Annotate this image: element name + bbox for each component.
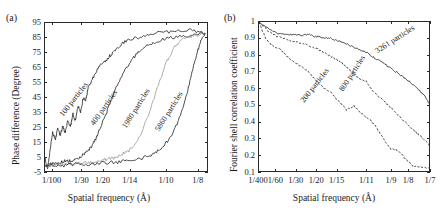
y-tick-label: 25 — [14, 122, 41, 132]
x-tickmark-top — [166, 22, 167, 25]
y-tickmark — [44, 172, 47, 173]
y-tick-label: 0.6 — [228, 83, 255, 93]
y-tickmark-right — [205, 127, 208, 128]
y-tick-label: 95 — [14, 17, 41, 27]
x-tickmark — [103, 169, 104, 172]
x-tickmark-top — [258, 21, 259, 24]
x-tickmark-top — [391, 21, 392, 24]
y-tickmark — [44, 22, 47, 23]
x-tickmark-top — [316, 21, 317, 24]
y-tick-label: 55 — [14, 77, 41, 87]
y-tickmark-right — [205, 82, 208, 83]
x-tick-label: 1/8 — [181, 175, 215, 185]
y-tickmark — [44, 112, 47, 113]
y-tickmark-right — [427, 38, 430, 39]
y-tickmark-right — [427, 71, 430, 72]
x-tickmark — [258, 169, 259, 172]
x-tickmark — [52, 169, 53, 172]
y-tickmark — [258, 38, 261, 39]
x-tickmark-top — [130, 22, 131, 25]
x-tickmark-top — [198, 22, 199, 25]
y-tick-label: 85 — [14, 32, 41, 42]
y-tickmark — [258, 88, 261, 89]
panel-b-curves — [259, 22, 430, 172]
x-tickmark-top — [366, 21, 367, 24]
x-tickmark — [81, 169, 82, 172]
x-tickmark-top — [337, 21, 338, 24]
y-tick-label: 0.9 — [228, 32, 255, 42]
y-tickmark — [44, 82, 47, 83]
y-tickmark-right — [427, 105, 430, 106]
panel-b-plot-area — [258, 21, 430, 172]
y-tick-label: 0.3 — [228, 133, 255, 143]
y-tick-label: 75 — [14, 47, 41, 57]
x-tickmark-top — [296, 21, 297, 24]
x-tickmark — [337, 169, 338, 172]
y-tickmark — [258, 138, 261, 139]
x-tickmark-top — [275, 21, 276, 24]
panel-a: (a) Phase difference (Degree) Spatial fr… — [0, 0, 218, 210]
x-tickmark — [408, 169, 409, 172]
y-tickmark-right — [205, 52, 208, 53]
y-tick-label: 0.4 — [228, 116, 255, 126]
y-tickmark-right — [427, 138, 430, 139]
y-tickmark — [44, 157, 47, 158]
y-tickmark — [258, 122, 261, 123]
y-tickmark — [44, 52, 47, 53]
y-tick-label: 35 — [14, 107, 41, 117]
y-tickmark-right — [205, 172, 208, 173]
x-tickmark — [275, 169, 276, 172]
x-tickmark-top — [430, 21, 431, 24]
x-tickmark — [366, 169, 367, 172]
x-tick-label: 1/14 — [113, 175, 147, 185]
y-tickmark-right — [205, 112, 208, 113]
y-tickmark — [44, 37, 47, 38]
x-tickmark-top — [52, 22, 53, 25]
x-tickmark — [430, 169, 431, 172]
y-tickmark — [44, 142, 47, 143]
x-tickmark — [391, 169, 392, 172]
y-tick-label: 0.2 — [228, 150, 255, 160]
panel-b-x-axis-label: Spatial frequency (Å) — [246, 193, 422, 203]
y-tickmark-right — [205, 22, 208, 23]
y-tickmark — [44, 127, 47, 128]
figure-container: (a) Phase difference (Degree) Spatial fr… — [0, 0, 441, 210]
y-tick-label: 15 — [14, 137, 41, 147]
y-tickmark-right — [427, 55, 430, 56]
curve-200-particles — [259, 22, 430, 169]
y-tickmark — [258, 155, 261, 156]
y-tickmark-right — [427, 122, 430, 123]
y-tickmark-right — [427, 172, 430, 173]
y-tickmark — [258, 105, 261, 106]
x-tickmark — [166, 169, 167, 172]
x-tickmark-top — [81, 22, 82, 25]
x-tickmark — [296, 169, 297, 172]
x-tickmark-top — [103, 22, 104, 25]
panel-a-x-axis-label: Spatial frequency (Å) — [24, 193, 194, 203]
y-tickmark-right — [205, 97, 208, 98]
y-tickmark — [258, 71, 261, 72]
y-tick-label: 0.7 — [228, 66, 255, 76]
y-tickmark — [44, 67, 47, 68]
y-tick-label: 1 — [228, 16, 255, 26]
x-tickmark — [198, 169, 199, 172]
x-tick-label: 1/7 — [413, 175, 441, 185]
panel-b: (b) Fourier shell correlation coefficien… — [218, 0, 441, 210]
y-tickmark-right — [427, 155, 430, 156]
y-tickmark — [258, 55, 261, 56]
y-tickmark-right — [205, 67, 208, 68]
y-tick-label: 45 — [14, 92, 41, 102]
y-tickmark-right — [427, 88, 430, 89]
y-tickmark — [44, 97, 47, 98]
y-tick-label: 0.5 — [228, 99, 255, 109]
y-tick-label: 0.8 — [228, 49, 255, 59]
x-tickmark — [316, 169, 317, 172]
y-tick-label: 65 — [14, 62, 41, 72]
y-tickmark-right — [205, 37, 208, 38]
y-tickmark-right — [205, 157, 208, 158]
y-tickmark — [258, 172, 261, 173]
x-tick-label: 1/10 — [149, 175, 183, 185]
x-tickmark — [130, 169, 131, 172]
y-tick-label: 5 — [14, 152, 41, 162]
y-tickmark-right — [205, 142, 208, 143]
